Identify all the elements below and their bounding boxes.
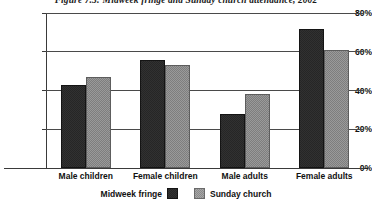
bar-midweek-fringe-female-children (140, 60, 165, 169)
x-tick-label-male-children: Male children (46, 171, 126, 181)
legend-label-sunday-church: Sunday church (210, 189, 271, 199)
chart-figure: Figure 7.3: Midweek fringe and Sunday ch… (0, 0, 372, 209)
bar-midweek-fringe-male-children (61, 85, 86, 168)
legend-swatch-midweek-fringe (167, 188, 178, 199)
legend-label-midweek-fringe: Midweek fringe (101, 189, 162, 199)
bar-midweek-fringe-male-adults (220, 114, 245, 168)
legend-swatch-sunday-church (194, 188, 205, 199)
plot-area (46, 13, 364, 168)
gridline-80 (46, 13, 364, 14)
bar-sunday-church-male-adults (245, 94, 270, 168)
x-tick-label-male-adults: Male adults (205, 171, 285, 181)
legend-item-sunday-church[interactable]: Sunday church (194, 188, 271, 199)
bar-sunday-church-female-adults (324, 50, 349, 168)
bar-sunday-church-female-children (165, 65, 190, 168)
chart-title: Figure 7.3: Midweek fringe and Sunday ch… (0, 0, 372, 5)
bar-midweek-fringe-female-adults (299, 29, 324, 169)
bar-sunday-church-male-children (86, 77, 111, 168)
legend-item-midweek-fringe[interactable]: Midweek fringe (101, 188, 178, 199)
x-tick-label-female-adults: Female adults (285, 171, 365, 181)
chart-legend: Midweek fringeSunday church (0, 188, 372, 199)
x-tick-label-female-children: Female children (126, 171, 206, 181)
